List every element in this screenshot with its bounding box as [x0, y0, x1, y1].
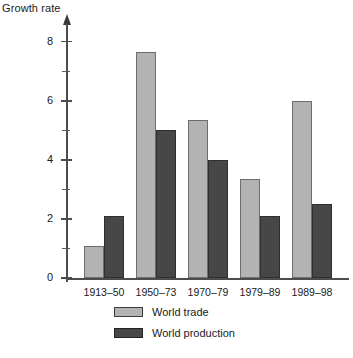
y-tick-label: 4 [47, 153, 53, 165]
y-tick-label: 2 [47, 212, 53, 224]
y-tick-label: 8 [47, 35, 53, 47]
y-tick-label: 0 [47, 271, 53, 283]
y-axis-title: Growth rate [2, 2, 61, 14]
bar-world-trade [292, 101, 312, 278]
legend-swatch-world-trade-icon [114, 307, 143, 317]
bar-world-production [312, 204, 332, 278]
plot-area: 02468 1913–501950–731970–791979–891989–9… [66, 14, 349, 280]
legend-label-world-production: World production [152, 327, 235, 339]
x-tick-label: 1970–79 [188, 286, 229, 298]
legend-item-world-production: World production [114, 324, 314, 341]
bar-world-production [208, 160, 228, 278]
bar-world-trade [188, 120, 208, 278]
x-tick-label: 1979–89 [240, 286, 281, 298]
legend-item-world-trade: World trade [114, 303, 314, 320]
chart-legend: World trade World production [114, 303, 314, 345]
bar-world-trade [136, 52, 156, 278]
x-tick-label: 1913–50 [84, 286, 125, 298]
bar-world-trade [84, 246, 104, 278]
legend-label-world-trade: World trade [152, 306, 209, 318]
x-tick-label: 1950–73 [136, 286, 177, 298]
bar-world-trade [240, 179, 260, 278]
bar-world-production [260, 216, 280, 278]
y-tick-label: 6 [47, 94, 53, 106]
growth-rate-bar-chart: Growth rate 02468 1913–501950–731970–791… [0, 0, 353, 358]
legend-swatch-world-production-icon [114, 328, 143, 338]
bar-series-group [66, 14, 349, 280]
bar-world-production [156, 130, 176, 278]
x-tick-label: 1989–98 [292, 286, 333, 298]
bar-world-production [104, 216, 124, 278]
